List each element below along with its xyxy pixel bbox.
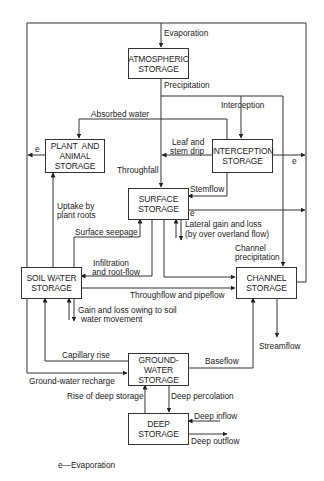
label-capillary-rise: Capillary rise xyxy=(62,350,110,360)
label-surface-seepage: Surface seepage xyxy=(75,227,138,237)
node-label: STORAGE xyxy=(55,161,96,171)
atmospheric-storage-box: ATMOSPHERIC STORAGE xyxy=(128,48,189,79)
node-label: INTERCEPTION xyxy=(211,146,273,156)
label-streamflow: Streamflow xyxy=(259,341,301,351)
soil-water-storage-box: SOIL WATER STORAGE xyxy=(21,267,82,299)
label-interception: Interception xyxy=(221,100,264,110)
label-stemflow: Stemflow xyxy=(190,184,224,194)
node-label: GROUND- xyxy=(139,355,179,365)
node-label: ANIMAL xyxy=(59,151,90,161)
legend-evaporation: e—Evaporation xyxy=(58,460,115,470)
label-deep-percolation: Deep percolation xyxy=(171,391,234,401)
node-label: WATER xyxy=(144,365,173,375)
node-label: STORAGE xyxy=(31,283,72,293)
label-infiltration-2: and root-flow xyxy=(92,267,140,277)
label-uptake-2: plant roots xyxy=(57,210,96,220)
label-gain-loss-2: water movement xyxy=(81,314,142,324)
label-e-plant: e xyxy=(35,144,40,154)
label-lateral-2: (by over overland flow) xyxy=(185,229,269,239)
label-gw-recharge: Ground-water recharge xyxy=(29,376,115,386)
node-label: STORAGE xyxy=(138,64,179,74)
label-precipitation: Precipitation xyxy=(164,80,210,90)
node-label: STORAGE xyxy=(138,429,179,439)
absorbed-water xyxy=(79,119,227,139)
label-e-interception: e xyxy=(292,156,297,166)
node-label: SURFACE xyxy=(139,194,178,204)
plant-animal-storage-box: PLANT AND ANIMAL STORAGE xyxy=(45,139,105,173)
label-lateral-1: Lateral gain and loss xyxy=(185,219,262,229)
channel-storage-box: CHANNEL STORAGE xyxy=(236,267,297,299)
label-rise-deep: Rise of deep storage xyxy=(67,391,144,401)
node-label: STORAGE xyxy=(246,283,287,293)
label-leaf-stem-drip-2: stem drip xyxy=(170,146,204,156)
node-label: STORAGE xyxy=(138,204,179,214)
node-label: ATMOSPHERIC xyxy=(128,54,189,64)
label-deep-outflow: Deep outflow xyxy=(191,436,239,446)
node-label: PLANT AND xyxy=(51,141,99,151)
label-absorbed-water: Absorbed water xyxy=(91,109,149,119)
node-label: SOIL WATER xyxy=(26,273,76,283)
deep-storage-box: DEEP STORAGE xyxy=(128,413,189,445)
surface-storage-box: SURFACE STORAGE xyxy=(128,188,189,220)
label-throughflow: Throughflow and pipeflow xyxy=(130,290,225,300)
label-e-surface: e xyxy=(190,208,195,218)
node-label: STORAGE xyxy=(222,156,263,166)
label-throughfall: Throughfall xyxy=(117,165,159,175)
channel-evap-loop xyxy=(296,230,306,282)
groundwater-storage-box: GROUND- WATER STORAGE xyxy=(128,353,189,386)
node-label: DEEP xyxy=(147,419,170,429)
label-evaporation: Evaporation xyxy=(164,28,208,38)
label-deep-inflow: Deep inflow xyxy=(194,411,237,421)
interception-storage-box: INTERCEPTION STORAGE xyxy=(212,139,273,173)
node-label: CHANNEL xyxy=(247,273,287,283)
label-baseflow: Baseflow xyxy=(205,356,239,366)
node-label: STORAGE xyxy=(138,375,179,385)
label-channel-precip-2: precipitation xyxy=(235,252,280,262)
